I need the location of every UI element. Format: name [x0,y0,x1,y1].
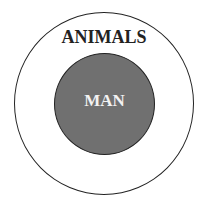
man-label: MAN [54,91,155,111]
venn-diagram: ANIMALS MAN [0,0,207,214]
animals-label: ANIMALS [54,27,154,48]
